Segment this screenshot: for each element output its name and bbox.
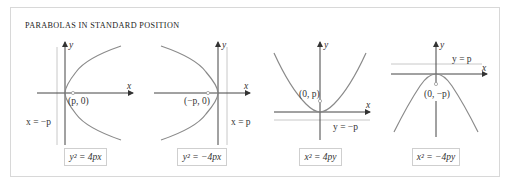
focus-label: (0, p) <box>299 89 320 100</box>
equation-box-left-opening: y² = −4px <box>177 148 227 166</box>
x-axis-label: x <box>481 63 487 73</box>
focus-point <box>206 91 209 94</box>
focus-point <box>318 99 321 102</box>
directrix-label: x = −p <box>26 117 51 127</box>
equation-box-up-opening: x² = 4py <box>299 148 342 166</box>
panel-right-opening: y x (p, 0) x = −p <box>26 40 133 145</box>
directrix-label: y = −p <box>333 122 358 132</box>
focus-label: (0, −p) <box>424 89 450 100</box>
directrix-label: x = p <box>231 117 251 127</box>
focus-label: (−p, 0) <box>184 96 210 107</box>
y-axis-label: y <box>221 40 227 50</box>
focus-label: (p, 0) <box>68 96 89 107</box>
y-axis-label: y <box>439 40 445 50</box>
panel-up-opening: y x (0, p) y = −p <box>274 40 371 140</box>
focus-point <box>71 91 74 94</box>
equation-box-right-opening: y² = 4px <box>64 148 107 166</box>
focus-point <box>434 82 437 85</box>
equation-box-down-opening: x² = −4py <box>412 148 460 166</box>
x-axis-label: x <box>243 81 249 91</box>
x-axis-label: x <box>365 100 371 110</box>
directrix-label: y = p <box>452 54 472 64</box>
y-axis-label: y <box>68 40 74 50</box>
x-axis-label: x <box>126 81 132 91</box>
panel-down-opening: y x (0, −p) y = p <box>391 40 487 137</box>
y-axis-label: y <box>323 40 329 50</box>
panel-left-opening: y x (−p, 0) x = p <box>154 40 251 145</box>
